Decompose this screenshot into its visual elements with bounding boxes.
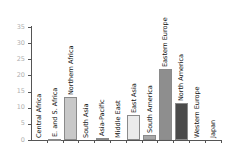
y-axis [31,26,32,141]
category-label: Central Africa [35,94,43,138]
x-tick [205,140,206,143]
y-tick [28,92,31,93]
y-tick-label: 20 [11,72,25,79]
bar-chart: 05101520253035 Central AfricaE. and S. A… [0,0,232,152]
category-label: North America [177,54,185,101]
y-tick-label: 10 [11,104,25,111]
y-tick [28,27,31,28]
bar [127,115,140,140]
category-label: Western Europe [193,86,201,138]
y-tick-label: 15 [11,88,25,95]
category-label: Japan [209,120,217,138]
category-label: Asia-Pacific [98,100,106,137]
x-tick [189,140,190,143]
category-label: East Asia [130,83,138,113]
bar [64,97,77,140]
x-tick [94,140,95,143]
y-tick [28,75,31,76]
x-tick [110,140,111,143]
x-tick [157,140,158,143]
category-label: Eastern Europe [161,17,169,67]
category-label: South Asia [82,103,90,138]
y-tick [28,108,31,109]
bar [175,103,188,140]
x-tick [142,140,143,143]
category-label: Middle East [114,100,122,138]
y-tick [28,43,31,44]
y-tick [28,140,31,141]
y-tick-label: 35 [11,24,25,31]
bar [96,138,109,140]
x-tick [126,140,127,143]
y-tick [28,124,31,125]
y-tick-label: 5 [11,120,25,127]
y-tick-label: 0 [11,137,25,144]
y-tick-label: 30 [11,40,25,47]
bar [143,135,156,140]
category-label: Northern Africa [67,46,75,95]
bar [48,139,61,141]
bar [159,69,172,140]
category-label: South America [146,85,154,133]
y-tick-label: 25 [11,56,25,63]
x-tick [173,140,174,143]
x-tick [221,140,222,143]
y-tick [28,59,31,60]
category-label: E. and S. Africa [51,87,59,136]
x-tick [63,140,64,143]
x-tick [78,140,79,143]
